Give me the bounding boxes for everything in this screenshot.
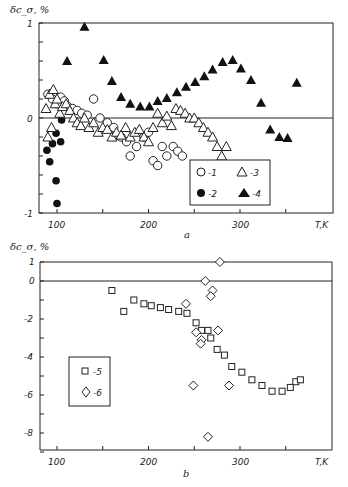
- data-point: [131, 297, 137, 303]
- data-point: [193, 320, 199, 326]
- data-point: [107, 76, 117, 85]
- data-point: [215, 258, 224, 267]
- x-tick-label-b-200: 200: [140, 457, 157, 467]
- data-point: [52, 177, 60, 185]
- data-point: [274, 132, 284, 141]
- legend-label-5: -5: [93, 367, 102, 377]
- legend-label-4: -4: [252, 189, 261, 199]
- x-tick-label-b-100: 100: [48, 457, 65, 467]
- y-axis-label-a: δc_σ, %: [10, 4, 49, 16]
- data-point: [172, 87, 182, 96]
- data-point: [221, 142, 231, 151]
- panel-caption-a: a: [184, 229, 190, 240]
- data-point: [162, 111, 172, 120]
- y-tick-label-b-minus4: -4: [24, 352, 33, 362]
- data-point: [153, 108, 163, 117]
- legend-label-2: -2: [208, 189, 217, 199]
- x-tick-label-300: 300: [232, 220, 249, 230]
- data-point: [182, 299, 191, 308]
- x-tick-label-100: 100: [48, 220, 65, 230]
- data-point: [265, 124, 275, 133]
- data-point: [178, 152, 186, 160]
- y-tick-label-1: 1: [27, 19, 33, 29]
- data-point: [249, 377, 255, 383]
- data-point: [259, 383, 265, 389]
- figure: δc_σ, % 1 0 -1 100 200 300 T,K a -1 -3 -…: [0, 0, 348, 487]
- data-point: [166, 307, 172, 313]
- data-point: [53, 200, 61, 208]
- data-point: [217, 151, 227, 160]
- data-point: [189, 381, 198, 390]
- data-point: [190, 77, 200, 86]
- data-point: [221, 352, 227, 358]
- data-point: [269, 388, 275, 394]
- y-tick-label-b-1: 1: [29, 257, 35, 267]
- data-point: [225, 381, 234, 390]
- y-tick-label-b-0: 0: [29, 276, 35, 286]
- data-point: [57, 138, 65, 146]
- data-point: [287, 384, 293, 390]
- data-point: [176, 308, 182, 314]
- data-point: [46, 158, 54, 166]
- data-point: [43, 132, 53, 141]
- x-ticks-b: [57, 446, 286, 450]
- data-point: [212, 142, 222, 151]
- data-point: [121, 123, 131, 132]
- data-point: [236, 64, 246, 73]
- data-point: [126, 152, 134, 160]
- data-point: [166, 121, 176, 130]
- data-point: [157, 305, 163, 311]
- data-point: [184, 310, 190, 316]
- data-point: [47, 123, 57, 132]
- y-ticks-a: [39, 23, 43, 213]
- data-point: [218, 57, 228, 66]
- data-point: [208, 65, 218, 74]
- data-point: [153, 96, 163, 105]
- data-point: [135, 102, 145, 111]
- data-point: [239, 369, 245, 375]
- data-point: [279, 388, 285, 394]
- data-point: [125, 99, 135, 108]
- x-tick-label-b-300: 300: [232, 457, 249, 467]
- data-point: [208, 335, 214, 341]
- y-axis-label-b: δc_σ, %: [10, 241, 49, 253]
- panel-b: δc_σ, % 1 0 -2 -4 -6 -8 100 200 300 T,K …: [10, 241, 332, 479]
- data-point: [292, 78, 302, 87]
- data-point: [229, 364, 235, 370]
- y-tick-label-0: 0: [27, 114, 33, 124]
- plot-frame-b: [40, 262, 332, 450]
- data-point: [228, 55, 238, 64]
- y-tick-label-b-minus8: -8: [24, 428, 33, 438]
- data-point: [148, 303, 154, 309]
- data-points-b: [109, 258, 303, 442]
- data-point: [62, 56, 72, 65]
- data-point: [205, 327, 211, 333]
- data-point: [116, 92, 126, 101]
- y-ticks-b: [40, 262, 44, 452]
- data-point: [246, 75, 256, 84]
- y-tick-label-minus1: -1: [24, 209, 33, 219]
- legend-b: -5 -6: [69, 357, 110, 406]
- x-tick-label-200: 200: [140, 220, 157, 230]
- data-point: [214, 326, 223, 335]
- y-tick-label-b-minus2: -2: [24, 314, 33, 324]
- data-point: [214, 346, 220, 352]
- data-point: [121, 308, 127, 314]
- legend-label-1: -1: [208, 168, 217, 178]
- data-point: [181, 82, 191, 91]
- data-point: [201, 277, 210, 286]
- data-point: [163, 152, 171, 160]
- data-point: [96, 114, 104, 122]
- legend-label-6: -6: [93, 388, 102, 398]
- data-point: [199, 71, 209, 80]
- data-point: [203, 432, 212, 441]
- data-point: [43, 147, 51, 155]
- panel-a: δc_σ, % 1 0 -1 100 200 300 T,K a -1 -3 -…: [10, 4, 333, 240]
- filled-circle-icon: [197, 189, 205, 197]
- legend-label-3: -3: [250, 168, 259, 178]
- data-point: [153, 161, 161, 169]
- x-axis-unit-b: T,K: [315, 457, 329, 467]
- data-point: [144, 102, 154, 111]
- data-point: [89, 95, 97, 103]
- data-point: [109, 288, 115, 294]
